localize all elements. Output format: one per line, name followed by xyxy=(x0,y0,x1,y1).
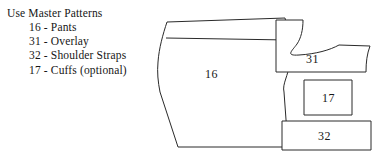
pattern-name: Cuffs (optional) xyxy=(51,64,127,76)
cuffs-outline-icon xyxy=(304,80,352,115)
instructions-block: Use Master Patterns 16 - Pants 31 - Over… xyxy=(0,0,190,77)
pattern-name: Shoulder Straps xyxy=(51,49,126,61)
list-item: 17 - Cuffs (optional) xyxy=(7,63,190,77)
pattern-separator: - xyxy=(44,49,48,61)
pattern-name: Overlay xyxy=(51,35,89,47)
pattern-number: 31 xyxy=(29,35,41,47)
piece-label-16: 16 xyxy=(205,67,218,81)
shoulder-straps-outline-icon xyxy=(282,121,371,150)
overlay-outline-icon xyxy=(276,20,370,72)
pattern-number: 32 xyxy=(29,49,41,61)
instructions-heading: Use Master Patterns xyxy=(7,6,190,20)
pattern-separator: - xyxy=(44,35,48,47)
piece-label-31: 31 xyxy=(306,52,319,66)
pattern-piece-shoulder-straps: 32 xyxy=(282,121,371,150)
pattern-separator: - xyxy=(44,64,48,76)
pattern-instruction-figure: Use Master Patterns 16 - Pants 31 - Over… xyxy=(0,0,383,165)
pattern-piece-cuffs: 17 xyxy=(304,80,352,115)
pattern-piece-overlay: 31 xyxy=(276,20,370,72)
list-item: 16 - Pants xyxy=(7,20,190,34)
pattern-name: Pants xyxy=(51,21,77,33)
pattern-number: 16 xyxy=(29,21,41,33)
pattern-number: 17 xyxy=(29,64,41,76)
piece-label-17: 17 xyxy=(322,91,335,105)
list-item: 32 - Shoulder Straps xyxy=(7,48,190,62)
piece-label-32: 32 xyxy=(318,129,331,143)
list-item: 31 - Overlay xyxy=(7,34,190,48)
pattern-list: 16 - Pants 31 - Overlay 32 - Shoulder St… xyxy=(7,20,190,77)
pattern-separator: - xyxy=(44,21,48,33)
